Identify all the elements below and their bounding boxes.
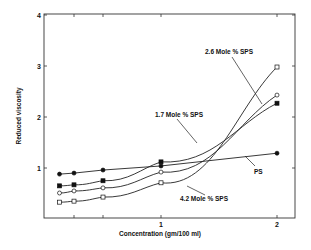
data-point-marker (275, 65, 279, 69)
annotation-2-6-sps: 2.6 Mole % SPS (205, 48, 254, 55)
data-point-marker (101, 168, 105, 172)
annotation-4-2-sps: 4.2 Mole % SPS (180, 195, 229, 202)
y-tick-label: 3 (37, 63, 41, 70)
axis-ticks: 121234 (37, 12, 295, 229)
series-line (60, 153, 278, 174)
data-point-marker (58, 191, 62, 195)
data-point-marker (101, 195, 105, 199)
data-point-marker (72, 199, 76, 203)
data-point-marker (58, 200, 62, 204)
x-axis-label: Concentration (gm/100 ml) (119, 230, 201, 238)
annotation-1-7-sps: 1.7 Mole % SPS (155, 111, 204, 118)
x-tick-label: 1 (159, 221, 163, 228)
data-point-marker (101, 186, 105, 190)
data-curves (60, 67, 278, 202)
y-tick-label: 1 (37, 165, 41, 172)
x-tick-label: 2 (275, 221, 279, 228)
data-point-marker (72, 171, 76, 175)
data-point-marker (159, 164, 163, 168)
data-point-marker (101, 179, 105, 183)
data-point-marker (159, 170, 163, 174)
data-point-marker (58, 184, 62, 188)
data-point-marker (72, 183, 76, 187)
y-axis-label: Reduced viscosity (15, 87, 23, 144)
annotation-pointers (177, 57, 262, 195)
data-point-marker (58, 172, 62, 176)
y-tick-label: 4 (37, 12, 41, 19)
data-point-marker (275, 151, 279, 155)
series-line (60, 67, 278, 202)
data-point-marker (159, 160, 163, 164)
data-point-marker (275, 93, 279, 97)
annotation-ps: PS (254, 168, 263, 175)
data-point-marker (159, 181, 163, 185)
viscosity-chart: 121234 Reduced viscosity Concentration (… (0, 0, 311, 250)
data-point-marker (275, 101, 279, 105)
y-tick-label: 2 (37, 114, 41, 121)
data-point-marker (72, 189, 76, 193)
